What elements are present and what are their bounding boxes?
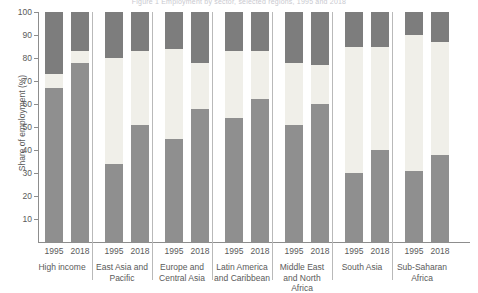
group-separator <box>212 12 213 280</box>
x-axis-region-label: East Asia andPacific <box>92 262 152 283</box>
bar-segment-services <box>285 12 303 63</box>
bar-segment-industry <box>165 49 183 139</box>
bar-segment-agriculture <box>165 139 183 243</box>
x-axis-year-label: 2018 <box>123 246 157 256</box>
bar-middle-east-and-north-africa-1995[interactable] <box>285 12 303 242</box>
region-label-line: Africa <box>392 273 452 284</box>
bar-segment-industry <box>105 58 123 164</box>
bar-segment-agriculture <box>371 150 389 242</box>
region-label-line: Europe and <box>152 262 212 273</box>
bar-segment-agriculture <box>345 173 363 242</box>
bar-middle-east-and-north-africa-2018[interactable] <box>311 12 329 242</box>
y-axis-tick <box>34 219 38 220</box>
region-label-line: and Caribbean <box>212 273 272 284</box>
bar-high-income-2018[interactable] <box>71 12 89 242</box>
bar-segment-industry <box>405 35 423 171</box>
x-axis-region-label: Europe andCentral Asia <box>152 262 212 283</box>
region-label-line: High income <box>32 262 92 273</box>
y-axis-tick <box>34 196 38 197</box>
bar-latin-america-and-caribbean-1995[interactable] <box>225 12 243 242</box>
bar-segment-services <box>431 12 449 42</box>
bar-segment-services <box>71 12 89 51</box>
region-label-line: Central Asia <box>152 273 212 284</box>
group-separator <box>92 12 93 280</box>
x-axis-region-label: High income <box>32 262 92 273</box>
bar-segment-agriculture <box>131 125 149 242</box>
group-separator <box>392 12 393 280</box>
x-axis-year-label: 2018 <box>243 246 277 256</box>
bar-segment-agriculture <box>105 164 123 242</box>
region-label-line: South Asia <box>332 262 392 273</box>
bar-segment-industry <box>285 63 303 125</box>
bar-segment-services <box>345 12 363 47</box>
bar-segment-industry <box>191 63 209 109</box>
bar-sub-saharan-africa-1995[interactable] <box>405 12 423 242</box>
bar-segment-agriculture <box>71 63 89 242</box>
bar-segment-services <box>225 12 243 51</box>
bar-latin-america-and-caribbean-2018[interactable] <box>251 12 269 242</box>
x-axis-year-label: 2018 <box>183 246 217 256</box>
y-axis-tick-label: 60 <box>23 104 32 105</box>
figure-caption-clipped: Figure 1 Employment by sector, selected … <box>0 0 478 6</box>
y-axis-tick <box>34 12 38 13</box>
y-axis-tick-label: 100 <box>18 12 32 13</box>
bar-segment-industry <box>431 42 449 155</box>
plot-area: 102030405060708090100 <box>38 12 470 242</box>
y-axis-tick <box>34 150 38 151</box>
x-axis-year-label: 2018 <box>363 246 397 256</box>
bar-segment-services <box>371 12 389 47</box>
bar-segment-agriculture <box>311 104 329 242</box>
bar-europe-and-central-asia-1995[interactable] <box>165 12 183 242</box>
x-axis-region-label: South Asia <box>332 262 392 273</box>
region-label-line: East Asia and <box>92 262 152 273</box>
bar-segment-agriculture <box>405 171 423 242</box>
y-axis-tick <box>34 81 38 82</box>
bar-segment-services <box>45 12 63 74</box>
bar-east-asia-and-pacific-2018[interactable] <box>131 12 149 242</box>
bar-segment-agriculture <box>45 88 63 242</box>
group-separator <box>272 12 273 280</box>
bar-segment-industry <box>225 51 243 118</box>
bar-segment-industry <box>251 51 269 99</box>
bar-south-asia-2018[interactable] <box>371 12 389 242</box>
region-label-line: Middle East <box>272 262 332 273</box>
x-axis-region-label: Middle Eastand North Africa <box>272 262 332 293</box>
y-axis-tick <box>34 35 38 36</box>
bar-segment-industry <box>45 74 63 88</box>
bar-europe-and-central-asia-2018[interactable] <box>191 12 209 242</box>
bar-south-asia-1995[interactable] <box>345 12 363 242</box>
bar-segment-industry <box>131 51 149 125</box>
group-separator <box>332 12 333 280</box>
bar-segment-industry <box>371 47 389 151</box>
x-axis-line <box>38 242 470 243</box>
bar-segment-services <box>405 12 423 35</box>
region-label-line: Sub-Saharan <box>392 262 452 273</box>
bar-sub-saharan-africa-2018[interactable] <box>431 12 449 242</box>
y-axis-tick-label: 90 <box>23 35 32 36</box>
x-axis-year-label: 2018 <box>423 246 457 256</box>
bar-segment-agriculture <box>191 109 209 242</box>
bar-segment-services <box>131 12 149 51</box>
x-axis-year-label: 2018 <box>63 246 97 256</box>
y-axis-tick-label: 80 <box>23 58 32 59</box>
group-separator <box>152 12 153 280</box>
y-axis-tick <box>34 104 38 105</box>
x-axis-region-label: Sub-SaharanAfrica <box>392 262 452 283</box>
bar-segment-services <box>311 12 329 65</box>
x-axis-region-label: Latin Americaand Caribbean <box>212 262 272 283</box>
bar-segment-agriculture <box>285 125 303 242</box>
y-axis-tick-label: 70 <box>23 81 32 82</box>
region-label-line: and North Africa <box>272 273 332 293</box>
bar-segment-industry <box>71 51 89 63</box>
y-axis-tick-label: 40 <box>23 150 32 151</box>
bar-east-asia-and-pacific-1995[interactable] <box>105 12 123 242</box>
chart-container: Figure 1 Employment by sector, selected … <box>0 0 478 293</box>
region-label-line: Latin America <box>212 262 272 273</box>
bar-segment-agriculture <box>251 99 269 242</box>
y-axis-tick-label: 30 <box>23 173 32 174</box>
bar-high-income-1995[interactable] <box>45 12 63 242</box>
figure-caption-text: Figure 1 Employment by sector, selected … <box>0 0 478 5</box>
bar-segment-services <box>251 12 269 51</box>
bar-segment-services <box>165 12 183 49</box>
bar-segment-industry <box>311 65 329 104</box>
